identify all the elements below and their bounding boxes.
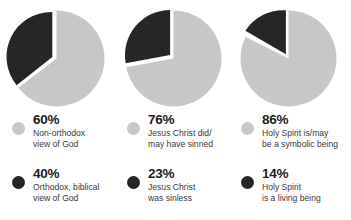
legend-percent: 23% [148,166,195,181]
pie-slices-0 [7,11,105,107]
pie-chart-svg-2 [230,6,347,110]
legend-percent: 60% [33,112,85,127]
legend-item: 86% Holy Spirit is/may be a symbolic bei… [237,112,351,164]
legend-item: 60% Non-orthodox view of God [4,112,121,164]
legend-column-view-of-holy-spirit: 86% Holy Spirit is/may be a symbolic bei… [237,112,351,220]
pie-chart-row [0,0,351,112]
legend-item: 14% Holy Spirit is a living being [237,166,351,218]
pie-chart-svg-1 [115,6,232,110]
legend-text-block: 86% Holy Spirit is/may be a symbolic bei… [262,112,338,149]
legend-item: 76% Jesus Christ did/ may have sinned [119,112,236,164]
legend-percent: 14% [262,166,321,181]
pie-chart-view-of-holy-spirit [230,6,347,110]
legend-swatch-light [241,122,254,135]
pie-chart-figure: 60% Non-orthodox view of God 40% Orthodo… [0,0,351,220]
legend-swatch-dark [241,176,254,189]
pie-chart-svg-0 [0,6,117,110]
legend-description: Holy Spirit is/may be a symbolic being [262,128,338,149]
legend-swatch-light [127,122,140,135]
legend-percent: 76% [148,112,213,127]
legend-swatch-light [12,122,25,135]
legend-description: Holy Spirit is a living being [262,182,321,203]
legend-column-view-of-god: 60% Non-orthodox view of God 40% Orthodo… [4,112,121,220]
legend-column-view-of-jesus: 76% Jesus Christ did/ may have sinned 23… [119,112,236,220]
pie-chart-view-of-god [0,6,117,110]
legend-description: Jesus Christ did/ may have sinned [148,128,213,149]
legend-text-block: 23% Jesus Christ was sinless [148,166,195,203]
legend-item: 23% Jesus Christ was sinless [119,166,236,218]
legend: 60% Non-orthodox view of God 40% Orthodo… [0,112,351,220]
pie-slices-1 [125,10,222,106]
legend-description: Orthodox, biblical view of God [33,182,99,203]
pie-slices-2 [241,10,337,106]
legend-text-block: 14% Holy Spirit is a living being [262,166,321,203]
pie-slice-exploded-dark-1 [125,10,170,63]
legend-text-block: 40% Orthodox, biblical view of God [33,166,99,203]
legend-description: Non-orthodox view of God [33,128,85,149]
legend-item: 40% Orthodox, biblical view of God [4,166,121,218]
legend-swatch-dark [12,176,25,189]
legend-text-block: 76% Jesus Christ did/ may have sinned [148,112,213,149]
legend-percent: 40% [33,166,99,181]
legend-percent: 86% [262,112,338,127]
legend-text-block: 60% Non-orthodox view of God [33,112,85,149]
legend-description: Jesus Christ was sinless [148,182,195,203]
pie-chart-view-of-jesus [115,6,232,110]
legend-swatch-dark [127,176,140,189]
